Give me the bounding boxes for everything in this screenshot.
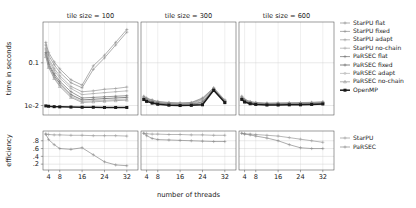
legend-label: StarPU no-chain bbox=[353, 44, 401, 51]
data-point bbox=[321, 141, 324, 144]
data-point bbox=[190, 133, 193, 136]
data-point bbox=[125, 106, 128, 109]
data-point bbox=[277, 139, 280, 142]
data-point bbox=[142, 98, 145, 101]
x-tick-label: 24 bbox=[198, 173, 206, 181]
y-tick-eff: .2 bbox=[33, 160, 39, 168]
x-tick-label: 8 bbox=[156, 173, 160, 181]
data-point bbox=[321, 102, 324, 105]
data-point bbox=[156, 103, 159, 106]
data-point bbox=[343, 21, 346, 24]
data-point bbox=[265, 134, 268, 137]
data-point bbox=[288, 136, 291, 139]
legend-item-starpu-no-chain[interactable]: StarPU no-chain bbox=[340, 44, 401, 51]
series-starpu-adapt bbox=[44, 47, 128, 94]
data-point bbox=[167, 138, 170, 141]
data-point bbox=[190, 104, 193, 107]
legend-label: PaRSEC no-chain bbox=[353, 77, 404, 84]
x-tick-label: 4 bbox=[144, 173, 148, 181]
legend-item-parsec-no-chain[interactable]: PaRSEC no-chain bbox=[340, 77, 404, 84]
data-point bbox=[125, 134, 128, 137]
chart-figure: tile size = 100tile size = 300tile size … bbox=[0, 0, 416, 208]
legend-item-openmp[interactable]: OpenMP bbox=[340, 86, 378, 94]
gridlines bbox=[43, 22, 334, 170]
data-point bbox=[151, 102, 154, 105]
legend-item-starpu-adapt[interactable]: StarPU adapt bbox=[340, 35, 393, 43]
data-point bbox=[81, 86, 84, 89]
data-point bbox=[223, 101, 226, 104]
legend-item-eff-parsec[interactable]: PaRSEC bbox=[340, 143, 376, 150]
data-point bbox=[92, 134, 95, 137]
efficiency-starpu bbox=[44, 133, 128, 138]
data-point bbox=[179, 104, 182, 107]
y-tick-eff: .8 bbox=[33, 137, 39, 145]
data-point bbox=[299, 146, 302, 149]
data-point bbox=[114, 106, 117, 109]
data-point bbox=[58, 105, 61, 108]
legend-label: StarPU flat bbox=[353, 19, 386, 26]
legend-item-parsec-fixed[interactable]: PaRSEC fixed bbox=[340, 61, 393, 68]
data-point bbox=[103, 106, 106, 109]
data-point bbox=[58, 133, 61, 136]
data-point bbox=[151, 137, 154, 140]
data-point bbox=[212, 89, 215, 92]
data-point bbox=[343, 55, 346, 58]
data-point bbox=[167, 104, 170, 107]
data-point bbox=[321, 147, 324, 150]
data-point bbox=[47, 105, 50, 108]
data-point bbox=[92, 153, 95, 156]
data-point bbox=[212, 134, 215, 137]
x-tick-label: 24 bbox=[100, 173, 108, 181]
x-tick-label: 16 bbox=[274, 173, 282, 181]
data-point bbox=[343, 30, 346, 33]
y-axis-label-time: time in seconds bbox=[5, 41, 13, 95]
data-point bbox=[69, 148, 72, 151]
data-point bbox=[103, 91, 106, 94]
data-point bbox=[223, 140, 226, 143]
legend-item-starpu-flat[interactable]: StarPU flat bbox=[340, 19, 386, 26]
data-point bbox=[212, 140, 215, 143]
x-axis-label: number of threads bbox=[157, 191, 221, 199]
x-tick-label: 16 bbox=[176, 173, 184, 181]
legend-item-parsec-flat[interactable]: PaRSEC flat bbox=[340, 52, 388, 59]
legend-label: StarPU adapt bbox=[353, 35, 393, 43]
series-starpu-flat bbox=[44, 28, 128, 87]
x-tick-label: 4 bbox=[46, 173, 50, 181]
data-point bbox=[151, 133, 154, 136]
data-point bbox=[44, 133, 47, 136]
y-tick-time: 1e-2 bbox=[24, 102, 39, 110]
facet-title-0: tile size = 100 bbox=[67, 12, 115, 20]
legend-item-starpu-fixed[interactable]: StarPU fixed bbox=[340, 27, 390, 34]
data-point bbox=[310, 139, 313, 142]
data-point bbox=[201, 103, 204, 106]
efficiency-parsec bbox=[142, 132, 226, 143]
data-point bbox=[114, 87, 117, 90]
series-openmp bbox=[44, 104, 128, 109]
legend-item-parsec-adapt[interactable]: PaRSEC adapt bbox=[340, 69, 396, 77]
data-point bbox=[265, 136, 268, 139]
x-tick-label: 8 bbox=[254, 173, 258, 181]
efficiency-parsec bbox=[44, 133, 128, 168]
data-point bbox=[288, 143, 291, 146]
data-point bbox=[179, 133, 182, 136]
data-point bbox=[344, 89, 347, 92]
data-point bbox=[240, 98, 243, 101]
legend-item-eff-starpu[interactable]: StarPU bbox=[340, 134, 373, 141]
legend-label: StarPU fixed bbox=[353, 27, 390, 34]
data-point bbox=[343, 38, 346, 41]
data-point bbox=[103, 134, 106, 137]
time-panel-2 bbox=[239, 22, 334, 115]
x-tick-label: 4 bbox=[242, 173, 246, 181]
x-tick-label: 32 bbox=[319, 173, 327, 181]
time-series-group bbox=[44, 28, 324, 109]
data-point bbox=[92, 89, 95, 92]
panel-frames bbox=[43, 22, 334, 170]
legend-label: PaRSEC adapt bbox=[353, 69, 396, 77]
y-axis-ticks: 0.11e-2.8.6.4.2 bbox=[24, 59, 43, 168]
data-point bbox=[343, 47, 346, 50]
x-tick-label: 24 bbox=[296, 173, 304, 181]
legend-label: PaRSEC bbox=[353, 143, 376, 150]
data-point bbox=[179, 139, 182, 142]
data-point bbox=[240, 132, 243, 135]
data-point bbox=[69, 134, 72, 137]
